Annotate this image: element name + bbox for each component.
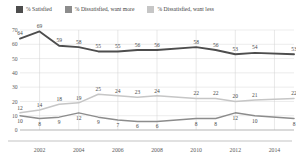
data-point-label: 10 [17, 118, 23, 124]
legend-label-want_less: % Dissatisfied, want less [157, 6, 213, 13]
data-point-label: 8 [195, 121, 198, 127]
data-point-label: 14 [37, 102, 43, 108]
data-point-label: 9 [58, 119, 61, 125]
data-point-label: 7 [116, 122, 119, 128]
line-chart-svg: 0102030405060706469595855555656585653545… [0, 18, 296, 160]
data-point-label: 6 [136, 123, 139, 129]
legend-item-want_less: % Dissatisfied, want less [147, 6, 213, 13]
data-point-label: 18 [56, 96, 62, 102]
data-point-label: 20 [233, 93, 239, 99]
data-point-label: 59 [56, 37, 62, 43]
legend-item-want_more: % Dissatisfied, want more [65, 6, 135, 13]
data-point-label: 22 [213, 90, 219, 96]
data-point-label: 22 [291, 90, 296, 96]
chart-legend: % Satisfied% Dissatisfied, want more% Di… [0, 0, 296, 18]
legend-swatch-satisfied [16, 6, 23, 13]
data-point-label: 12 [17, 105, 23, 111]
data-point-label: 23 [135, 89, 141, 95]
chart-figure: % Satisfied% Dissatisfied, want more% Di… [0, 0, 296, 160]
data-point-label: 6 [156, 123, 159, 129]
data-point-label: 12 [76, 115, 82, 121]
data-point-label: 53 [291, 46, 296, 52]
data-point-label: 9 [97, 119, 100, 125]
data-point-label: 10 [252, 118, 258, 124]
y-tick-label: 20 [12, 99, 18, 105]
data-point-label: 24 [154, 88, 160, 94]
data-point-label: 8 [293, 121, 296, 127]
data-point-label: 56 [135, 42, 141, 48]
data-point-label: 8 [214, 121, 217, 127]
x-tick-label: 2008 [151, 147, 163, 153]
y-tick-label: 60 [12, 41, 18, 47]
legend-item-satisfied: % Satisfied [16, 6, 52, 13]
data-point-label: 24 [115, 88, 121, 94]
x-tick-label: 2010 [190, 147, 202, 153]
y-tick-label: 0 [15, 127, 18, 133]
legend-swatch-want_less [147, 6, 154, 13]
data-point-label: 69 [37, 23, 43, 29]
data-point-label: 56 [213, 42, 219, 48]
data-point-label: 64 [17, 30, 23, 36]
legend-label-want_more: % Dissatisfied, want more [75, 6, 135, 13]
data-point-label: 53 [233, 46, 239, 52]
x-tick-label: 2004 [73, 147, 85, 153]
data-point-label: 58 [193, 39, 199, 45]
data-point-label: 54 [252, 44, 258, 50]
data-point-label: 56 [154, 42, 160, 48]
chart-plot-area: 0102030405060706469595855555656585653545… [0, 18, 296, 160]
x-tick-label: 2012 [229, 147, 241, 153]
data-point-label: 58 [76, 39, 82, 45]
data-point-label: 19 [76, 95, 82, 101]
legend-swatch-want_more [65, 6, 72, 13]
y-tick-label: 50 [12, 56, 18, 62]
data-point-label: 21 [252, 92, 258, 98]
x-tick-label: 2006 [112, 147, 124, 153]
data-point-label: 55 [115, 43, 121, 49]
legend-label-satisfied: % Satisfied [26, 6, 52, 13]
x-tick-label: 2002 [34, 147, 46, 153]
data-point-label: 55 [96, 43, 102, 49]
y-tick-label: 40 [12, 70, 18, 76]
data-point-label: 12 [233, 115, 239, 121]
data-point-label: 25 [96, 86, 102, 92]
y-tick-label: 30 [12, 84, 18, 90]
x-tick-label: 2014 [269, 147, 281, 153]
data-point-label: 8 [38, 121, 41, 127]
data-point-label: 22 [193, 90, 199, 96]
